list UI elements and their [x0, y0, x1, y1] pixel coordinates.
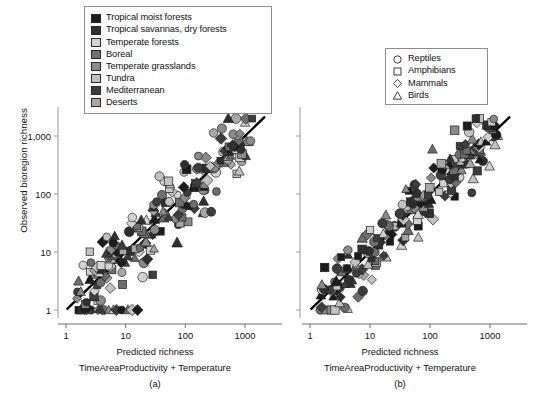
x-axis-subtitle: TimeAreaProductivity + Temperature [324, 362, 476, 373]
data-point-circle [79, 261, 87, 269]
legend-label: Tropical moist forests [106, 13, 192, 22]
biome-legend: Tropical moist forests Tropical savannas… [84, 6, 272, 114]
data-point-circle [332, 264, 342, 274]
circle-icon [392, 54, 403, 65]
legend-item: Temperate grasslands [91, 60, 265, 72]
data-point-circle [194, 163, 203, 172]
legend-swatch [91, 50, 101, 59]
data-point-square [472, 115, 479, 122]
legend-label: Amphibians [408, 66, 456, 75]
data-point-circle [190, 200, 198, 208]
data-point-triangle [110, 231, 119, 240]
data-point-triangle [317, 280, 327, 289]
data-point-square [367, 226, 374, 233]
data-point-square [424, 191, 432, 199]
data-point-circle [358, 286, 367, 295]
y-tick-label: 1 [46, 305, 51, 316]
legend-swatch [91, 74, 101, 83]
data-point-diamond [426, 173, 435, 182]
data-point-triangle [74, 276, 84, 285]
data-point-circle [378, 219, 387, 228]
data-point-square [97, 262, 105, 270]
data-point-circle [217, 124, 226, 133]
x-tick-label: 10 [120, 330, 130, 341]
data-point-circle [412, 189, 421, 198]
data-point-triangle [381, 210, 391, 219]
data-point-circle [180, 160, 188, 168]
y-tick-label: 10 [41, 247, 51, 258]
legend-swatch [91, 38, 101, 47]
legend-item: Reptiles [392, 53, 481, 65]
data-point-square [164, 177, 173, 186]
data-point-circle [103, 233, 111, 241]
legend-label: Birds [408, 91, 429, 100]
panel-caption: (b) [394, 378, 405, 389]
data-point-square [149, 271, 156, 278]
data-point-circle [213, 188, 221, 196]
data-point-circle [150, 225, 159, 234]
data-point-triangle [199, 196, 209, 205]
legend-item: Boreal [91, 48, 265, 60]
data-point-circle [83, 298, 91, 306]
legend-label: Temperate grasslands [106, 62, 195, 71]
legend-item: Deserts [91, 97, 265, 109]
x-axis-title: Predicted richness [116, 346, 193, 357]
data-point-square [358, 245, 367, 254]
data-point-circle [138, 272, 147, 281]
legend-item: Mammals [392, 77, 481, 89]
legend-label: Temperate forests [106, 38, 179, 47]
data-point-square [249, 115, 256, 122]
x-tick-label: 100 [422, 330, 438, 341]
y-axis-title: Observed bioregion richness [18, 86, 29, 256]
legend-item: Birds [392, 89, 481, 101]
data-point-circle [124, 227, 134, 237]
data-point-circle [398, 200, 407, 209]
legend-swatch [91, 62, 101, 71]
data-point-triangle [172, 237, 183, 247]
legend-item: Mediterranean [91, 85, 265, 97]
data-point-circle [209, 129, 217, 137]
data-point-square [402, 234, 409, 241]
data-point-diamond [105, 283, 116, 294]
legend-label: Deserts [106, 98, 137, 107]
legend-item: Tropical savannas, dry forests [91, 24, 265, 36]
x-tick-label: 1000 [235, 330, 256, 341]
legend-swatch [91, 86, 101, 95]
x-tick-label: 1000 [480, 330, 501, 341]
data-point-circle [128, 213, 136, 221]
panel-a: 11010010001101001,000Predicted richnessT… [28, 107, 282, 389]
data-point-triangle [414, 232, 423, 241]
data-point-circle [246, 137, 255, 146]
taxon-legend: Reptiles Amphibians Mammals Birds [385, 48, 488, 105]
legend-label: Tropical savannas, dry forests [106, 25, 227, 34]
x-axis-title: Predicted richness [361, 346, 438, 357]
legend-label: Mediterranean [106, 86, 165, 95]
legend-item: Tundra [91, 72, 265, 84]
data-point-square [426, 184, 434, 192]
legend-swatch [91, 14, 101, 23]
legend-swatch [91, 26, 101, 35]
legend-label: Mammals [408, 79, 448, 88]
panel-caption: (a) [149, 378, 160, 389]
y-tick-label: 100 [35, 189, 51, 200]
data-point-circle [344, 246, 352, 254]
diamond-icon [392, 78, 403, 89]
data-point-square [437, 159, 446, 168]
x-tick-label: 1 [63, 330, 68, 341]
data-point-circle [490, 115, 498, 123]
data-point-square [435, 188, 442, 195]
data-point-circle [468, 189, 476, 197]
data-point-square [320, 263, 328, 271]
x-axis-subtitle: TimeAreaProductivity + Temperature [79, 362, 231, 373]
legend-item: Temperate forests [91, 36, 265, 48]
data-point-circle [345, 275, 354, 284]
legend-item: Amphibians [392, 65, 481, 77]
data-point-circle [118, 268, 126, 276]
x-tick-label: 1 [307, 330, 312, 341]
x-tick-label: 10 [365, 330, 375, 341]
data-point-square [473, 167, 481, 175]
data-point-square [86, 248, 93, 255]
square-icon [392, 66, 403, 77]
data-point-circle [165, 197, 174, 206]
legend-label: Reptiles [408, 54, 441, 63]
